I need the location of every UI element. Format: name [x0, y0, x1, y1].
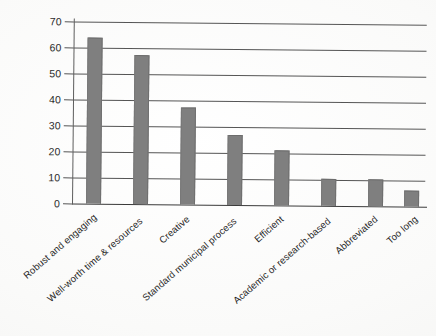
x-axis-labels: Robust and engaging Well-worth time & re…	[0, 0, 436, 336]
bar-chart-figure: 70 60 50 40 30 20 10 0 Robust and engagi…	[0, 0, 436, 336]
